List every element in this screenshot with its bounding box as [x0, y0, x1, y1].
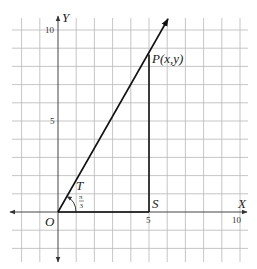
- angle-denominator: 3: [80, 202, 84, 210]
- y-tick-5: 5: [50, 116, 55, 126]
- point-P-label: P(x,y): [151, 51, 183, 66]
- angle-numerator: π: [79, 193, 83, 201]
- angle-arc: [67, 196, 76, 212]
- x-axis-label: X: [237, 196, 247, 211]
- point-T-label: T: [76, 178, 84, 193]
- x-tick-5: 5: [146, 215, 151, 225]
- y-axis-label: Y: [62, 10, 71, 25]
- y-tick-10: 10: [45, 25, 55, 35]
- point-S-label: S: [152, 196, 159, 211]
- coordinate-diagram: Y X O P(x,y) S T 10 5 5 10 π 3: [0, 0, 257, 269]
- x-tick-10: 10: [232, 215, 242, 225]
- angle-label: π 3: [79, 193, 84, 210]
- origin-label: O: [45, 214, 55, 229]
